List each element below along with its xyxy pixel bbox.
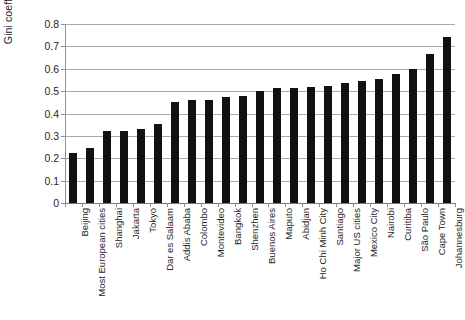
bar-slot: [235, 24, 252, 203]
y-tick-label: 0: [53, 197, 59, 209]
bar: [358, 81, 366, 203]
bar-slot: [302, 24, 319, 203]
x-label-wrap: Colombo: [197, 208, 210, 318]
x-tickmark: [268, 203, 269, 207]
bar: [409, 69, 417, 203]
bar-slot: [218, 24, 235, 203]
x-tickmark: [387, 203, 388, 207]
x-tickmark: [150, 203, 151, 207]
x-label-wrap: Maputo: [282, 208, 295, 318]
x-label-wrap: Beijing: [78, 208, 91, 318]
x-label-wrap: Most European cities: [95, 208, 108, 318]
y-tick-label: 0.3: [44, 130, 59, 142]
y-tick-label: 0.6: [44, 63, 59, 75]
x-label-wrap: Addis Ababa: [180, 208, 193, 318]
bar: [188, 100, 196, 203]
bar-slot: [184, 24, 201, 203]
x-tickmark: [99, 203, 100, 207]
bar-slot: [167, 24, 184, 203]
x-label-wrap: Ho Chi Minh City: [316, 208, 329, 318]
bar-slot: [201, 24, 218, 203]
x-category-label: Curitiba: [401, 208, 414, 318]
bar: [120, 131, 128, 203]
x-tickmark: [235, 203, 236, 207]
bar-slot: [252, 24, 269, 203]
y-tick-label: 0.7: [44, 40, 59, 52]
bar: [103, 131, 111, 203]
x-label-wrap: Mexico City: [367, 208, 380, 318]
bar-slot: [268, 24, 285, 203]
x-category-label: Addis Ababa: [180, 208, 193, 318]
bar: [256, 91, 264, 203]
x-label-wrap: Bangkok: [231, 208, 244, 318]
y-axis-title: Gini coefficient: [2, 0, 16, 74]
x-category-label: Bangkok: [231, 208, 244, 318]
x-category-label: Abidjan: [299, 208, 312, 318]
bar: [392, 74, 400, 203]
bar-series: [65, 24, 455, 203]
x-label-wrap: Jakarta: [129, 208, 142, 318]
bar: [443, 37, 451, 203]
x-category-label: Colombo: [197, 208, 210, 318]
x-label-wrap: Shenzhen: [248, 208, 261, 318]
x-label-wrap: Nairobi: [384, 208, 397, 318]
x-tickmark: [133, 203, 134, 207]
bar-slot: [336, 24, 353, 203]
x-category-label: Dar es Salaam: [163, 208, 176, 318]
bar-slot: [404, 24, 421, 203]
bar: [239, 96, 247, 203]
x-tickmark: [455, 203, 456, 207]
x-tickmark: [421, 203, 422, 207]
y-tick-label: 0.2: [44, 152, 59, 164]
y-tick-label: 0.1: [44, 175, 59, 187]
x-category-label: Montevideo: [214, 208, 227, 318]
x-label-wrap: Buenos Aires: [265, 208, 278, 318]
x-label-wrap: Dar es Salaam: [163, 208, 176, 318]
bar-slot: [387, 24, 404, 203]
bar-slot: [116, 24, 133, 203]
bar-slot: [150, 24, 167, 203]
plot-area: 00.10.20.30.40.50.60.70.8: [65, 24, 455, 203]
x-label-wrap: Cape Town: [435, 208, 448, 318]
bar: [154, 124, 162, 203]
x-tickmark: [438, 203, 439, 207]
x-category-label: Shenzhen: [248, 208, 261, 318]
x-label-wrap: Shanghai: [112, 208, 125, 318]
bar: [86, 148, 94, 203]
x-tickmark: [285, 203, 286, 207]
x-tickmark: [201, 203, 202, 207]
bar: [205, 100, 213, 203]
x-tickmark: [167, 203, 168, 207]
x-tickmark: [252, 203, 253, 207]
x-category-label: Most European cities: [95, 208, 108, 318]
x-tickmark: [82, 203, 83, 207]
bar-slot: [438, 24, 455, 203]
bar-slot: [82, 24, 99, 203]
x-category-label: Ho Chi Minh City: [316, 208, 329, 318]
x-tickmark: [218, 203, 219, 207]
x-tickmark: [302, 203, 303, 207]
x-label-wrap: Montevideo: [214, 208, 227, 318]
x-tickmark: [353, 203, 354, 207]
x-category-label: Cape Town: [435, 208, 448, 318]
x-category-label: Buenos Aires: [265, 208, 278, 318]
x-tickmark: [336, 203, 337, 207]
x-category-label: Major US cities: [350, 208, 363, 318]
bar: [171, 102, 179, 203]
bar-slot: [133, 24, 150, 203]
bar-slot: [99, 24, 116, 203]
x-category-label: Johannesburg: [452, 208, 465, 318]
bar-slot: [319, 24, 336, 203]
bar: [307, 87, 315, 203]
x-category-label: São Paulo: [418, 208, 431, 318]
x-category-label: Nairobi: [384, 208, 397, 318]
x-category-label: Jakarta: [129, 208, 142, 318]
x-category-label: Maputo: [282, 208, 295, 318]
x-tickmark: [184, 203, 185, 207]
x-category-label: Beijing: [78, 208, 91, 318]
bar-slot: [421, 24, 438, 203]
bar: [426, 54, 434, 203]
bar: [375, 79, 383, 203]
y-tick-label: 0.4: [44, 108, 59, 120]
bar-slot: [370, 24, 387, 203]
